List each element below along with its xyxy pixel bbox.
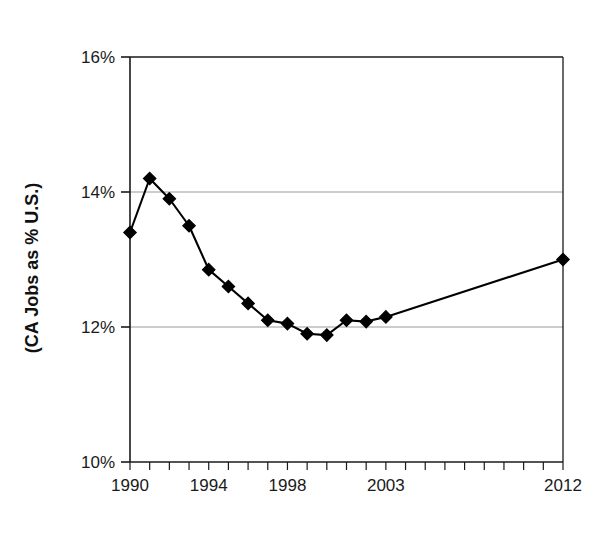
- y-tick-label-16: 16%: [81, 48, 115, 67]
- y-axis-title-text: (CA Jobs as % U.S.): [22, 183, 42, 353]
- x-tick-label-2012: 2012: [544, 476, 582, 495]
- x-tick-label-1990: 1990: [111, 476, 149, 495]
- chart-container: 16%14%12%10% 19901994199820032012 (CA Jo…: [0, 0, 601, 534]
- y-tick-label-14: 14%: [81, 183, 115, 202]
- line-chart: 16%14%12%10% 19901994199820032012 (CA Jo…: [0, 0, 601, 534]
- y-tick-label-10: 10%: [81, 453, 115, 472]
- x-tick-label-1994: 1994: [190, 476, 228, 495]
- y-tick-label-12: 12%: [81, 318, 115, 337]
- y-axis-title: (CA Jobs as % U.S.): [22, 183, 42, 353]
- x-tick-label-2003: 2003: [367, 476, 405, 495]
- x-tick-label-1998: 1998: [269, 476, 307, 495]
